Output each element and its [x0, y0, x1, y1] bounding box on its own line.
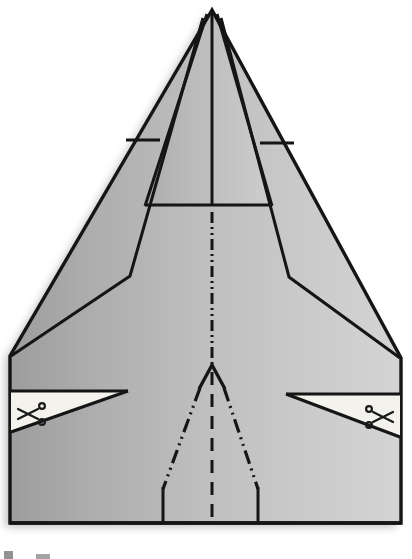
- paper-plane-figure: [0, 0, 412, 559]
- diagram-root: Paper Airplane Fold Diagram Arrow / pent…: [0, 0, 412, 559]
- cropped-caption-glyphs: [4, 551, 50, 559]
